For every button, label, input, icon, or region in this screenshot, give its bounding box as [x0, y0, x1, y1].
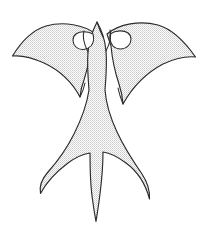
swallow-figure — [13, 22, 196, 222]
illustration-canvas: Swallow Silhouette — [0, 0, 208, 237]
right-wing-root-eye — [110, 31, 131, 49]
swallow-illustration-svg — [0, 0, 208, 237]
